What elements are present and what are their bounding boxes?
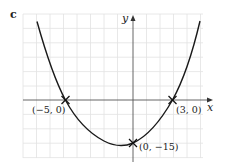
x-axis-label: x: [207, 101, 214, 114]
y-intercept-label: (0, −15): [139, 141, 179, 152]
grid: [23, 14, 203, 158]
parabola-curve: [37, 21, 200, 146]
y-axis-arrow-icon: [131, 15, 136, 21]
y-axis-label: y: [121, 12, 129, 25]
x-axis: [23, 98, 213, 103]
root-left-label: (−5, 0): [32, 104, 66, 115]
root-right-label: (3, 0): [176, 104, 202, 115]
parabola-chart: x y (−5, 0) (3, 0) (0, −15): [0, 0, 226, 168]
y-axis: [131, 15, 136, 162]
